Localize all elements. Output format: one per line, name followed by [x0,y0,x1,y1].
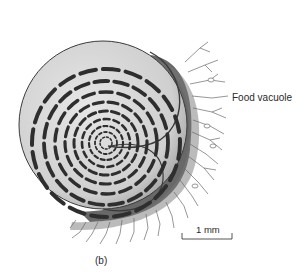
food-vacuole-label: Food vacuole [232,92,292,103]
panel-label: (b) [95,255,107,266]
foraminiferan-illustration [0,0,307,279]
scale-bar-label: 1 mm [196,224,220,235]
